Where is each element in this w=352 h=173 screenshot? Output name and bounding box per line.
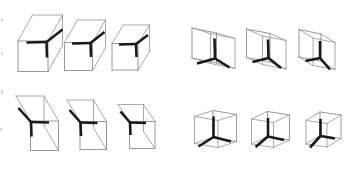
box-edge-near-top [247, 29, 271, 34]
arm-right [130, 123, 146, 124]
wireframe-box-box-7 [16, 96, 59, 151]
box-edge-connect-top-left [247, 29, 263, 36]
box-edge-recede-top-left [112, 25, 124, 44]
box-edge-near-top [268, 112, 290, 116]
box-edge-recede-bottom-right [44, 126, 59, 151]
trihedral-vertex [256, 118, 285, 147]
arm-up-left [121, 112, 131, 123]
box-edge-connect-bottom-right [218, 142, 237, 148]
wireframe-box-box-11 [252, 112, 290, 148]
arm-down [130, 123, 131, 136]
arm-down [47, 42, 48, 58]
wireframe-box-box-1 [18, 15, 63, 72]
box-edge-connect-top-left [306, 112, 320, 121]
wireframe-box-box-6 [299, 30, 335, 70]
group-bottom-right [195, 111, 342, 148]
box-edge-connect-top-left [252, 112, 268, 120]
box-edge-near-top [320, 112, 341, 115]
edge-speck-1 [1, 18, 3, 21]
arm-up-left [70, 110, 81, 123]
trihedral-vertex [72, 32, 105, 57]
wireframe-box-box-4 [192, 28, 235, 69]
wireframe-box-box-12 [306, 112, 341, 148]
trihedral-vertex [253, 40, 282, 69]
arm-up [268, 40, 269, 59]
box-edge-recede-top-left [65, 20, 78, 43]
box-edge-connect-bottom-right [327, 139, 341, 148]
arm-down [136, 44, 137, 57]
box-edge-recede-bottom-right [93, 48, 106, 71]
arm-down [81, 123, 82, 137]
trihedral-vertex [197, 39, 230, 68]
trihedral-vertex [121, 112, 147, 136]
trihedral-vertex [199, 117, 232, 147]
group-top-right [192, 28, 335, 70]
box-edge-far-bottom [263, 65, 287, 70]
arm-up-left [19, 108, 32, 122]
trihedral-vertex [306, 41, 331, 70]
arm-right [31, 122, 49, 123]
box-edge-connect-top-right [327, 115, 341, 124]
arm-up [215, 39, 216, 59]
trihedral-vertex [27, 30, 63, 58]
wireframe-box-box-10 [195, 111, 237, 148]
wireframe-box-box-2 [65, 20, 106, 71]
box-edge-far-top [252, 119, 274, 123]
box-edge-connect-top-right [274, 115, 290, 123]
wireframe-box-box-9 [118, 105, 155, 149]
box-edge-recede-bottom-right [144, 132, 156, 149]
edge-speck-3 [1, 90, 3, 94]
box-edge-connect-top-right [270, 34, 286, 41]
box-edge-far-bottom [252, 144, 274, 148]
box-edge-connect-bottom-right [274, 140, 290, 148]
trihedral-vertex [119, 35, 148, 57]
box-edge-recede-bottom-right [138, 52, 150, 71]
edge-speck-2 [1, 52, 3, 55]
box-edge-far-top [306, 121, 327, 124]
box-edge-recede-top-right [44, 96, 59, 121]
arm-up-right [47, 30, 63, 43]
arm-left [119, 44, 136, 45]
box-edge-recede-bottom-right [48, 46, 63, 72]
box-edge-recede-top-right [94, 100, 107, 122]
edge-speck-4 [0, 128, 2, 131]
box-edge-far-top [263, 36, 287, 41]
box-edge-recede-top-right [144, 105, 156, 122]
box-edge-far-top [211, 34, 236, 39]
box-edge-recede-top-right [48, 15, 63, 41]
box-edge-connect-top-left [195, 111, 214, 117]
arm-right [81, 123, 98, 124]
arm-down [31, 122, 32, 137]
box-edge-near-top [213, 111, 237, 115]
arm-left [27, 42, 47, 43]
wireframe-box-box-3 [112, 25, 150, 70]
wireframe-box-box-5 [247, 29, 287, 69]
arm-down [91, 43, 92, 57]
arm-right [268, 137, 284, 141]
wireframe-box-box-8 [67, 100, 107, 150]
group-bottom-left [16, 96, 155, 151]
box-edge-recede-top-left [18, 15, 33, 41]
arm-left [72, 43, 91, 44]
group-top-left [18, 15, 150, 72]
trihedral-vertex-figure [0, 0, 352, 173]
arm-right [214, 137, 232, 142]
box-edge-recede-bottom-right [94, 128, 107, 150]
box-edge-connect-top-right [218, 115, 237, 121]
arm-right [321, 136, 336, 139]
figure-canvas [0, 0, 352, 173]
